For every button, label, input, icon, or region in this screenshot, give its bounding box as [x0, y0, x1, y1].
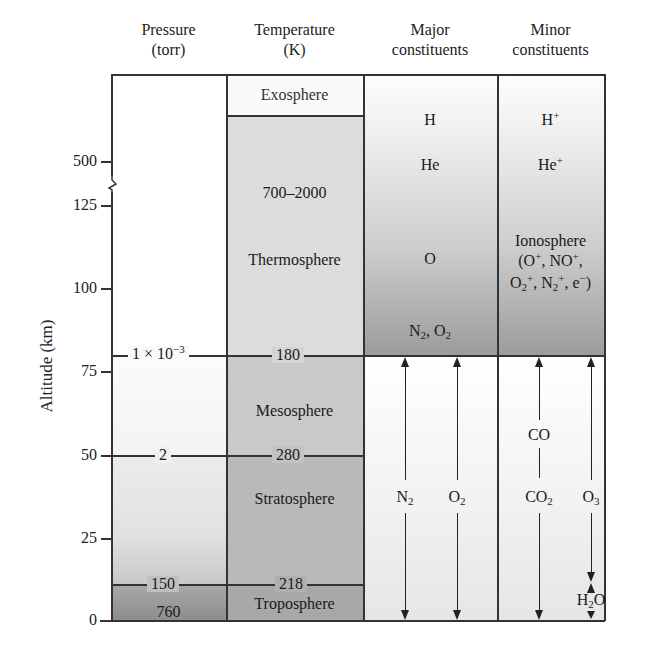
minor-o3: O3: [571, 488, 611, 506]
o2-arrow-shaft-top: [457, 365, 459, 480]
thermosphere-label: Thermosphere: [226, 251, 363, 269]
header-temperature-line1: Temperature: [226, 20, 363, 40]
y-tick-label-25: 25: [57, 530, 97, 546]
header-minor-line2: constituents: [497, 40, 604, 60]
h2o-arrow-down-icon: [587, 611, 595, 619]
col-divider-1: [226, 74, 228, 621]
y-tick-label-75: 75: [57, 363, 97, 379]
thermo-temp-range: 700–2000: [226, 184, 363, 202]
pressure-label-760: 760: [111, 603, 226, 621]
co-arrow-shaft-top: [539, 365, 541, 420]
table-right-border: [604, 74, 606, 621]
n2-arrow-shaft-top: [405, 365, 407, 480]
minor-h2o: H2O: [566, 591, 616, 609]
major-n2-o2: N2, O2: [363, 322, 497, 340]
y-tick-label-125: 125: [57, 197, 97, 213]
y-tick-125: [101, 205, 111, 207]
header-major-line1: Major: [363, 20, 497, 40]
header-pressure: Pressure (torr): [111, 20, 226, 60]
minor-co2: CO2: [509, 488, 569, 506]
pressure-label-1e-3: 1 × 10−3: [128, 346, 189, 362]
header-major-line2: constituents: [363, 40, 497, 60]
o3-arrow-shaft-top: [591, 365, 593, 480]
n2-arrow-shaft-bottom: [405, 513, 407, 611]
major-h: H: [363, 111, 497, 129]
o2-arrow-down-icon: [453, 610, 461, 620]
y-tick-50: [101, 455, 111, 457]
y-tick-label-100: 100: [57, 280, 97, 296]
troposphere-label: Troposphere: [226, 595, 363, 613]
pressure-label-2: 2: [155, 447, 171, 463]
header-minor: Minor constituents: [497, 20, 604, 60]
y-tick-25: [101, 538, 111, 540]
y-tick-label-50: 50: [57, 447, 97, 463]
pressure-region-middle: [111, 455, 226, 584]
minor-he-plus: He+: [497, 156, 604, 174]
co-co2-connector: [539, 448, 541, 478]
major-n2: N2: [385, 488, 425, 506]
major-o: O: [363, 250, 497, 268]
y-tick-75: [101, 371, 111, 373]
ionosphere-label: Ionosphere: [497, 232, 604, 250]
stratosphere-label: Stratosphere: [226, 490, 363, 508]
o3-arrow-down-icon: [587, 572, 595, 582]
co2-arrow-shaft-bottom: [539, 513, 541, 611]
header-pressure-line1: Pressure: [111, 20, 226, 40]
y-axis-label: Altitude (km): [37, 311, 57, 421]
temp-label-218: 218: [275, 576, 307, 592]
co2-arrow-down-icon: [535, 610, 543, 620]
header-pressure-line2: (torr): [111, 40, 226, 60]
pressure-label-150: 150: [147, 576, 179, 592]
pressure-region-upper: [111, 355, 226, 455]
o3-arrow-shaft-bottom: [591, 513, 593, 578]
n2-arrow-down-icon: [401, 610, 409, 620]
mesosphere-label: Mesosphere: [226, 402, 363, 420]
o2-arrow-shaft-bottom: [457, 513, 459, 611]
header-minor-line1: Minor: [497, 20, 604, 40]
header-temperature-line2: (K): [226, 40, 363, 60]
y-tick-label-0: 0: [57, 612, 97, 628]
thermosphere-region: [226, 116, 363, 355]
y-tick-500: [101, 161, 111, 163]
temp-label-280: 280: [272, 447, 304, 463]
major-he: He: [363, 156, 497, 174]
ionosphere-ions-line1: (O+, NO+,: [497, 252, 604, 270]
stratosphere-region: [226, 455, 363, 584]
minor-co: CO: [514, 426, 564, 444]
ionosphere-ions-line2: O2+, N2+, e−): [497, 274, 604, 292]
table-top-border: [111, 74, 605, 76]
major-o2: O2: [437, 488, 477, 506]
header-major: Major constituents: [363, 20, 497, 60]
minor-h-plus: H+: [497, 111, 604, 129]
y-tick-label-500: 500: [57, 153, 97, 169]
exosphere-boundary: [226, 115, 363, 117]
exosphere-label: Exosphere: [226, 86, 363, 104]
y-axis-line: [111, 74, 113, 621]
boundary-50km: [111, 455, 363, 457]
temp-label-180: 180: [272, 347, 304, 363]
header-temperature: Temperature (K): [226, 20, 363, 60]
y-tick-100: [101, 288, 111, 290]
axis-break-icon: [104, 176, 120, 192]
